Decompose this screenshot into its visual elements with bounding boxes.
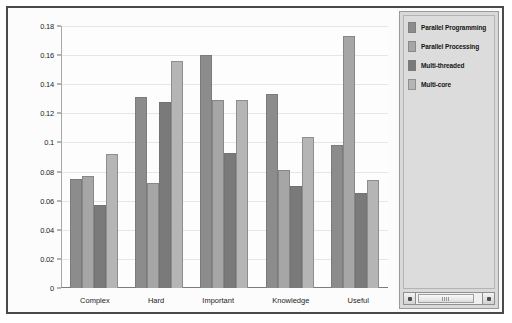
- y-tick-label: 0.16: [40, 51, 54, 60]
- legend-item[interactable]: Parallel Processing: [408, 41, 490, 52]
- x-tick-label: Complex: [80, 289, 110, 311]
- gridline: [62, 84, 388, 85]
- bar[interactable]: [355, 193, 367, 288]
- bar[interactable]: [343, 36, 355, 288]
- bar[interactable]: [331, 145, 343, 288]
- scrollbar-thumb[interactable]: [418, 294, 474, 303]
- legend-item-label: Multi-core: [421, 81, 451, 88]
- legend-swatch-icon: [408, 22, 416, 33]
- legend-item[interactable]: Multi-threaded: [408, 60, 490, 71]
- y-tick-label: 0.14: [40, 80, 54, 89]
- y-tick-label: 0.02: [40, 254, 54, 263]
- bar[interactable]: [212, 100, 224, 288]
- legend-list: Parallel ProgrammingParallel ProcessingM…: [403, 15, 495, 289]
- bar[interactable]: [159, 102, 171, 288]
- bar[interactable]: [266, 94, 278, 288]
- x-axis: ComplexHardImportantKnowledgeUseful: [61, 289, 388, 311]
- legend-item-label: Parallel Programming: [421, 24, 486, 31]
- bar[interactable]: [200, 55, 212, 288]
- legend-horizontal-scrollbar[interactable]: [403, 292, 495, 305]
- bar[interactable]: [94, 205, 106, 288]
- x-tick-label: Useful: [348, 289, 369, 311]
- legend-swatch-icon: [408, 60, 416, 71]
- legend-item[interactable]: Parallel Programming: [408, 22, 490, 33]
- bar-chart: 00.020.040.060.080.10.120.140.160.18 Com…: [8, 8, 397, 312]
- y-tick-label: 0: [50, 284, 54, 293]
- y-tick-label: 0.04: [40, 225, 54, 234]
- legend-item-label: Parallel Processing: [421, 43, 479, 50]
- legend-swatch-icon: [408, 79, 416, 90]
- bar[interactable]: [290, 186, 302, 288]
- x-tick-label: Hard: [148, 289, 164, 311]
- bar[interactable]: [236, 100, 248, 288]
- scroll-left-button[interactable]: [403, 292, 416, 305]
- right-arrow-icon: [487, 297, 491, 301]
- bar[interactable]: [224, 153, 236, 288]
- scrollbar-track[interactable]: [416, 292, 482, 305]
- legend-item[interactable]: Multi-core: [408, 79, 490, 90]
- bar[interactable]: [135, 97, 147, 288]
- y-tick-label: 0.18: [40, 22, 54, 31]
- gridline: [62, 55, 388, 56]
- bar[interactable]: [70, 179, 82, 288]
- y-tick-label: 0.06: [40, 196, 54, 205]
- gridline: [62, 113, 388, 114]
- gridline: [62, 142, 388, 143]
- bar[interactable]: [367, 180, 379, 288]
- left-arrow-icon: [408, 297, 412, 301]
- scroll-right-button[interactable]: [482, 292, 495, 305]
- legend-panel: Parallel ProgrammingParallel ProcessingM…: [399, 11, 499, 309]
- bar[interactable]: [82, 176, 94, 288]
- y-axis: 00.020.040.060.080.10.120.140.160.18: [8, 26, 61, 288]
- bar[interactable]: [302, 137, 314, 288]
- y-tick-label: 0.12: [40, 109, 54, 118]
- grip-icon: [442, 297, 450, 301]
- x-tick-label: Important: [202, 289, 234, 311]
- chart-window: 00.020.040.060.080.10.120.140.160.18 Com…: [6, 6, 504, 314]
- x-tick-label: Knowledge: [272, 289, 309, 311]
- legend-item-label: Multi-threaded: [421, 62, 464, 69]
- legend-swatch-icon: [408, 41, 416, 52]
- y-tick-label: 0.08: [40, 167, 54, 176]
- bar[interactable]: [106, 154, 118, 288]
- gridline: [62, 26, 388, 27]
- y-tick-label: 0.1: [44, 138, 54, 147]
- bar[interactable]: [278, 170, 290, 288]
- bar[interactable]: [147, 183, 159, 288]
- bar[interactable]: [171, 61, 183, 288]
